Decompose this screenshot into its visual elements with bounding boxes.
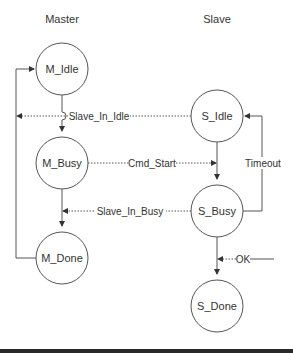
m-idle-to-m-busy-edge (62, 95, 66, 131)
m-done-to-m-idle-edge (16, 69, 36, 258)
ok-label: OK (236, 254, 251, 265)
bottom-border (0, 349, 293, 353)
slave-in-busy-label: Slave_In_Busy (97, 206, 164, 217)
state-s-busy: S_Busy (191, 185, 243, 237)
state-machine-diagram: Master Slave Slave_In_Idle Cmd_Start Sla… (0, 0, 293, 353)
state-s-idle: S_Idle (191, 90, 243, 142)
slave-in-idle-label: Slave_In_Idle (69, 111, 130, 122)
state-m-busy: M_Busy (36, 137, 88, 189)
state-m-busy-label: M_Busy (42, 157, 82, 169)
state-m-idle-label: M_Idle (45, 63, 78, 75)
cmd-start-label: Cmd_Start (128, 158, 176, 169)
state-s-busy-label: S_Busy (198, 205, 236, 217)
state-m-done: M_Done (36, 232, 88, 284)
state-s-done: S_Done (191, 280, 243, 332)
state-s-idle-label: S_Idle (201, 110, 232, 122)
master-column-title: Master (45, 13, 79, 25)
timeout-label: Timeout (245, 158, 281, 169)
slave-column-title: Slave (203, 13, 231, 25)
state-m-idle: M_Idle (36, 43, 88, 95)
state-s-done-label: S_Done (197, 300, 237, 312)
state-m-done-label: M_Done (41, 252, 83, 264)
